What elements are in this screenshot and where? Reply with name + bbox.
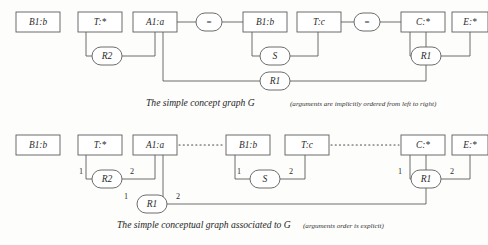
concept-node[interactable]: T:c — [297, 12, 341, 32]
concept-node[interactable]: C:* — [401, 12, 445, 32]
concept-label: E:* — [462, 17, 477, 27]
concept-label: C:* — [416, 140, 430, 150]
relation-label: S — [263, 173, 268, 184]
relation-label: R2 — [101, 50, 113, 61]
equality-node[interactable]: = — [354, 13, 380, 31]
edge-b1bmid-s — [252, 32, 260, 56]
concept-label: B1:b — [29, 140, 47, 150]
edge-cstar-r1bottom — [137, 155, 426, 204]
concept-label: E:* — [462, 140, 477, 150]
relation-label: R1 — [269, 75, 281, 86]
caption-top: The simple concept graph G — [146, 97, 255, 108]
edge-cstar-r1bottom — [290, 32, 426, 81]
relation-node[interactable]: R1 1 2 — [398, 167, 454, 188]
relation-node[interactable]: R2 1 2 — [79, 167, 134, 188]
relation-node[interactable]: R1 — [411, 47, 441, 65]
edge-a1a-r1bottom — [163, 32, 260, 81]
concept-node[interactable]: A1:a — [133, 12, 177, 32]
concept-label: T:* — [94, 140, 107, 150]
top-relation-nodes: R2 S R1 R1 — [92, 47, 441, 90]
concept-node[interactable]: B1:b — [16, 12, 60, 32]
edge-tc-s — [290, 32, 318, 56]
relation-node[interactable]: R1 — [260, 72, 290, 90]
diagram-bottom: B1:b T:* A1:a B1:b T:c — [16, 135, 488, 230]
edge-cstar-r1right — [410, 155, 411, 179]
arg-number: 1 — [398, 167, 402, 176]
equality-label: = — [206, 17, 211, 27]
bottom-concept-nodes: B1:b T:* A1:a B1:b T:c — [16, 135, 488, 155]
concept-node[interactable]: B1:b — [16, 135, 60, 155]
concept-node[interactable]: E:* — [452, 12, 488, 32]
concept-node[interactable]: T:* — [78, 12, 122, 32]
caption-note-bottom: (arguments order is explicit) — [303, 222, 384, 230]
relation-label: R1 — [420, 50, 432, 61]
relation-label: R1 — [146, 198, 158, 209]
relation-node[interactable]: R1 1 2 — [124, 192, 180, 213]
concept-label: C:* — [416, 17, 430, 27]
caption-bottom: The simple conceptual graph associated t… — [117, 219, 291, 230]
concept-label: T:* — [94, 17, 107, 27]
concept-node[interactable]: T:* — [78, 135, 122, 155]
concept-label: A1:a — [145, 140, 164, 150]
concept-label: B1:b — [239, 140, 257, 150]
edge-estar-r1right — [441, 32, 470, 56]
concept-node[interactable]: E:* — [452, 135, 488, 155]
relation-label: R2 — [101, 173, 113, 184]
arg-number: 2 — [130, 167, 134, 176]
relation-label: S — [273, 50, 278, 61]
concept-node[interactable]: C:* — [401, 135, 445, 155]
edge-tstar-r2 — [86, 155, 92, 179]
relation-node[interactable]: S 1 2 — [237, 167, 293, 188]
concept-node[interactable]: T:c — [285, 135, 329, 155]
concept-node[interactable]: B1:b — [243, 12, 287, 32]
concept-label: B1:b — [256, 17, 274, 27]
concept-node[interactable]: A1:a — [133, 135, 177, 155]
edge-tstar-r2 — [86, 32, 92, 56]
relation-node[interactable]: S — [260, 47, 290, 65]
figure-page: B1:b T:* A1:a B1:b T:c — [0, 0, 488, 245]
bottom-relation-nodes: R2 1 2 S 1 2 R1 1 2 R1 — [79, 167, 454, 213]
arg-number: 2 — [450, 167, 454, 176]
concept-label: T:c — [301, 140, 314, 150]
relation-node[interactable]: R2 — [92, 47, 122, 65]
edge-estar-r1right — [441, 155, 470, 179]
arg-number: 1 — [124, 192, 128, 201]
edge-cstar-r1right — [410, 32, 411, 56]
caption-note-top: (arguments are implicitly ordered from l… — [290, 100, 437, 108]
edge-a1a-r2 — [122, 32, 155, 56]
equality-label: = — [364, 17, 369, 27]
concept-label: A1:a — [145, 17, 164, 27]
concept-label: B1:b — [29, 17, 47, 27]
arg-number: 2 — [289, 167, 293, 176]
concept-graph-figure: B1:b T:* A1:a B1:b T:c — [0, 0, 488, 245]
edge-a1a-r2 — [122, 155, 155, 179]
top-concept-nodes: B1:b T:* A1:a B1:b T:c — [16, 12, 488, 32]
concept-node[interactable]: B1:b — [226, 135, 270, 155]
relation-label: R1 — [420, 173, 432, 184]
diagram-top: B1:b T:* A1:a B1:b T:c — [16, 12, 488, 108]
arg-number: 1 — [79, 167, 83, 176]
concept-label: T:c — [313, 17, 326, 27]
arg-number: 1 — [237, 167, 241, 176]
arg-number: 2 — [176, 192, 180, 201]
equality-node[interactable]: = — [196, 13, 222, 31]
